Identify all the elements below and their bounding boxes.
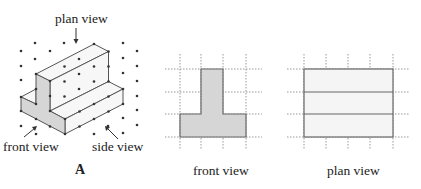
plan-view-rectangle <box>304 69 393 137</box>
isometric-solid-figure: plan view front view side view A <box>3 11 144 177</box>
front-view-caption: front view <box>193 163 249 178</box>
plan-view-arrowhead-icon <box>74 39 79 44</box>
front-view-t-shape <box>180 69 246 137</box>
side-view-label: side view <box>92 139 144 154</box>
plan-view-figure: plan view <box>287 54 409 178</box>
front-view-figure: front view <box>165 54 262 178</box>
three-views-diagram: plan view front view side view A front v… <box>0 0 421 189</box>
plan-view-caption: plan view <box>327 163 380 178</box>
figure-caption-a: A <box>75 162 86 177</box>
front-view-label: front view <box>3 139 59 154</box>
front-view-arrow <box>24 128 35 137</box>
side-view-arrow <box>107 128 118 139</box>
plan-view-label: plan view <box>55 11 108 26</box>
